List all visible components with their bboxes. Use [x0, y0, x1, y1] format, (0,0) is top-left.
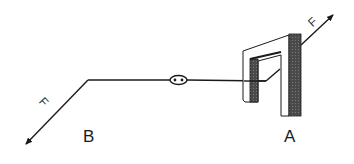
- connector-icon: [170, 76, 187, 85]
- point-label-b: B: [83, 128, 94, 145]
- diagram-canvas: [0, 0, 354, 164]
- point-label-a: A: [284, 128, 295, 145]
- wire-bend: [266, 69, 280, 81]
- force-arrow-left: [26, 80, 88, 144]
- right-shaded-column: [289, 34, 301, 116]
